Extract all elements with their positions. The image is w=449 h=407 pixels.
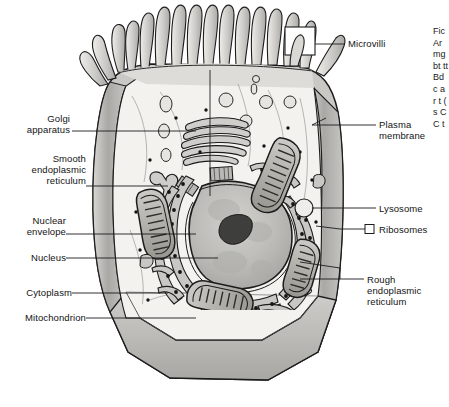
- label-microvilli: Microvilli: [348, 38, 385, 49]
- label-cytoplasm: Cytoplasm: [26, 287, 72, 298]
- caption-column-fragment: Fic Ar mg bt tt Bd c a r t ( s C C t: [433, 26, 449, 281]
- label-rough-endoplasmic-reticulum: Rough endoplasmic reticulum: [367, 274, 421, 307]
- figure-canvas: Golgi apparatus Smooth endoplasmic retic…: [0, 0, 449, 407]
- label-plasma-membrane: Plasma membrane: [379, 119, 425, 141]
- label-mitochondrion: Mitochondrion: [25, 312, 86, 323]
- label-ribosomes: Ribosomes: [379, 224, 427, 235]
- label-lysosome: Lysosome: [379, 203, 423, 214]
- lysosome: [295, 199, 313, 217]
- label-smooth-endoplasmic-reticulum: Smooth endoplasmic reticulum: [32, 153, 86, 186]
- label-nucleus: Nucleus: [31, 252, 66, 263]
- ribosomes-callout-box: [365, 225, 374, 234]
- label-nuclear-envelope: Nuclear envelope: [27, 215, 66, 237]
- label-golgi-apparatus: Golgi apparatus: [27, 113, 70, 135]
